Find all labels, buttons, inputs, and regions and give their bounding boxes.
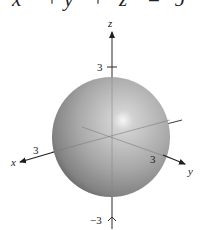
y-axis (163, 155, 185, 164)
y-tick-label: 3 (150, 153, 156, 165)
y-axis-label: y (187, 165, 193, 177)
x-axis-label: x (10, 156, 16, 168)
sphere-diagram: z 3 −3 x 3 y 3 (0, 0, 203, 230)
z-axis-label: z (107, 17, 113, 29)
x-tick-label: 3 (33, 144, 39, 156)
z-tick-label-top: 3 (97, 61, 103, 73)
z-tick-label-bottom: −3 (90, 214, 102, 226)
